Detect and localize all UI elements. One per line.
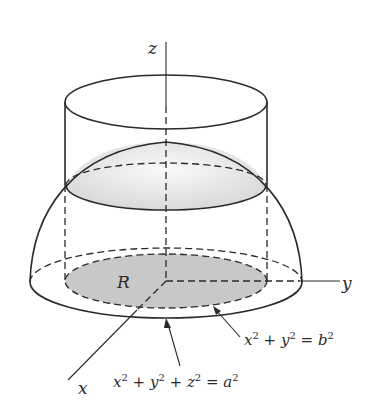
sphere-eq-pointer — [168, 324, 180, 366]
x-axis — [68, 310, 137, 380]
z-axis-label: z — [147, 38, 158, 58]
cylinder-equation: x2 + y2 = b2 — [244, 330, 334, 349]
x-axis-label: x — [78, 378, 88, 398]
sphere-equation: x2 + y2 + z2 = a2 — [113, 372, 239, 391]
y-axis-label: y — [341, 273, 352, 293]
solid-region-diagram: z y x R x2 + y2 = b2 x2 + y2 + z2 = a2 — [0, 0, 378, 411]
arrowhead-sphere-icon — [164, 318, 171, 328]
region-label: R — [116, 272, 130, 292]
